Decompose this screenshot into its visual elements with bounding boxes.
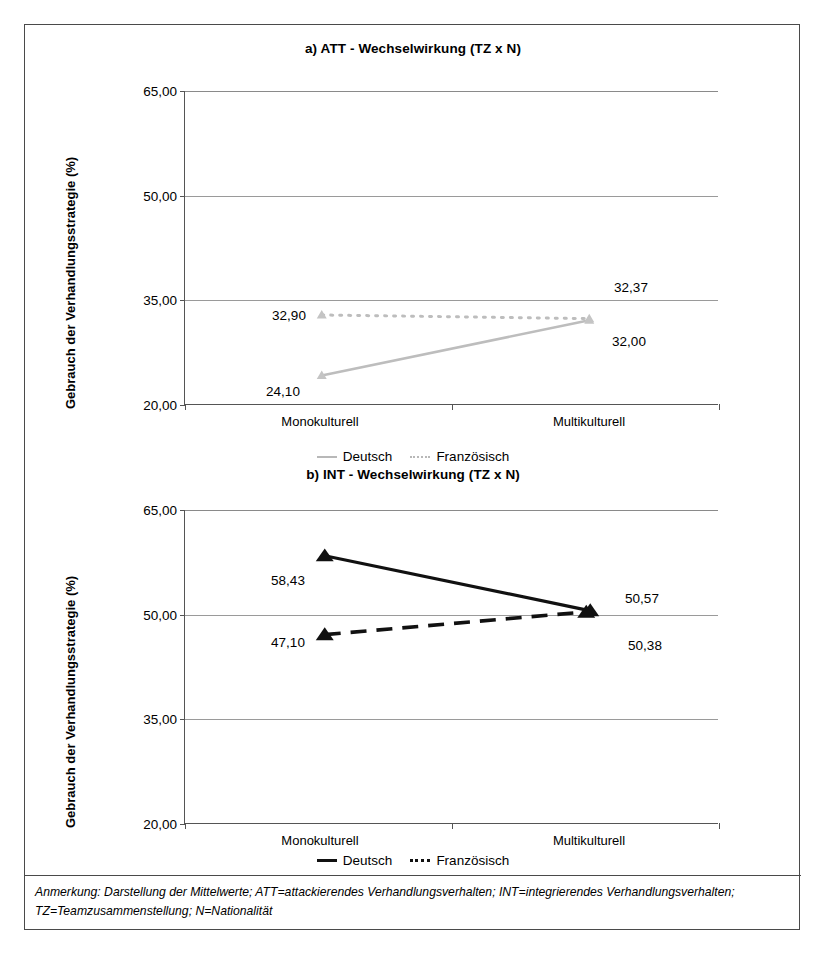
- chart-b-series-layer: [185, 510, 718, 823]
- xtick-mark-left: [185, 823, 186, 829]
- chart-b-value-deutsch-left: 58,43: [271, 573, 305, 588]
- chart-a-value-deutsch-right: 32,00: [612, 334, 646, 349]
- xtick-mark-left: [185, 404, 186, 410]
- gridline-35: [185, 300, 718, 301]
- gridline-65: [185, 510, 718, 511]
- ytick-label-65: 65,00: [143, 84, 177, 99]
- gridline-50: [185, 615, 718, 616]
- line-solid-icon: [317, 859, 337, 862]
- chart-a-line-franzoesisch: [322, 315, 589, 319]
- chart-panel-b: b) INT - Wechselwirkung (TZ x N) Gebrauc…: [25, 455, 801, 875]
- xtick-mark-right: [719, 823, 720, 829]
- ytick-label-50: 50,00: [143, 607, 177, 622]
- chart-a-marker-deutsch-right: [584, 315, 594, 323]
- chart-b-legend-item-franzoesisch: Französisch: [410, 853, 509, 868]
- ytick-mark-50: [180, 615, 185, 616]
- chart-b-legend-label-deutsch: Deutsch: [343, 853, 393, 868]
- figure-footnote: Anmerkung: Darstellung der Mittelwerte; …: [35, 883, 791, 921]
- ytick-mark-65: [180, 510, 185, 511]
- ytick-label-50: 50,00: [143, 188, 177, 203]
- gridline-65: [185, 91, 718, 92]
- chart-b-marker-franzoesisch-right: [577, 605, 595, 618]
- ytick-label-35: 35,00: [143, 293, 177, 308]
- ytick-mark-35: [180, 300, 185, 301]
- xtick-label-monokulturell: Monokulturell: [281, 833, 358, 848]
- footnote-divider: [25, 875, 801, 876]
- chart-a-value-franzoesisch-left: 32,90: [272, 308, 306, 323]
- xtick-label-monokulturell: Monokulturell: [281, 414, 358, 429]
- ytick-label-35: 35,00: [143, 712, 177, 727]
- ytick-mark-65: [180, 91, 185, 92]
- chart-b-plot-area: 65,00 50,00 35,00 20,00 Monokulturell Mu…: [184, 510, 718, 824]
- chart-a-y-axis-label: Gebrauch der Verhandlungsstrategie (%): [63, 157, 78, 409]
- chart-b-legend-label-franzoesisch: Französisch: [436, 853, 509, 868]
- chart-a-series-layer: [185, 91, 718, 404]
- ytick-label-20: 20,00: [143, 398, 177, 413]
- line-dotted-icon: [410, 859, 430, 862]
- xtick-mark-right: [719, 404, 720, 410]
- chart-panel-a: a) ATT - Wechselwirkung (TZ x N) Gebrauc…: [25, 25, 801, 455]
- chart-a-marker-deutsch-left: [317, 371, 327, 379]
- chart-b-legend: Deutsch Französisch: [25, 853, 801, 868]
- chart-a-value-deutsch-left: 24,10: [266, 384, 300, 399]
- chart-b-marker-franzoesisch-left: [316, 627, 334, 640]
- chart-b-value-franzoesisch-right: 50,38: [628, 638, 662, 653]
- chart-a-marker-franzoesisch-right: [584, 314, 594, 322]
- chart-b-marker-deutsch-left: [316, 548, 334, 561]
- chart-a-line-deutsch: [322, 320, 589, 375]
- gridline-50: [185, 196, 718, 197]
- xtick-label-multikulturell: Multikulturell: [553, 833, 625, 848]
- xtick-mark-mid: [452, 823, 453, 829]
- ytick-label-20: 20,00: [143, 817, 177, 832]
- ytick-mark-35: [180, 719, 185, 720]
- xtick-label-multikulturell: Multikulturell: [553, 414, 625, 429]
- chart-a-plot-area: 65,00 50,00 35,00 20,00 Monokulturell Mu…: [184, 91, 718, 405]
- chart-a-title: a) ATT - Wechselwirkung (TZ x N): [25, 41, 801, 56]
- chart-a-value-franzoesisch-right: 32,37: [614, 280, 648, 295]
- figure-frame: a) ATT - Wechselwirkung (TZ x N) Gebrauc…: [24, 24, 800, 930]
- chart-b-title: b) INT - Wechselwirkung (TZ x N): [25, 467, 801, 482]
- chart-a-marker-franzoesisch-left: [317, 310, 327, 318]
- gridline-35: [185, 719, 718, 720]
- xtick-mark-mid: [452, 404, 453, 410]
- chart-b-value-franzoesisch-left: 47,10: [271, 635, 305, 650]
- chart-b-y-axis-label: Gebrauch der Verhandlungsstrategie (%): [63, 576, 78, 828]
- ytick-mark-50: [180, 196, 185, 197]
- chart-b-value-deutsch-right: 50,57: [625, 591, 659, 606]
- chart-b-line-deutsch: [325, 556, 589, 611]
- ytick-label-65: 65,00: [143, 503, 177, 518]
- chart-b-legend-item-deutsch: Deutsch: [317, 853, 393, 868]
